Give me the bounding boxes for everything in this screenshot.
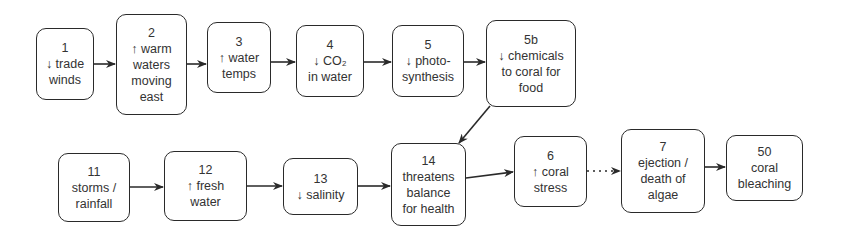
node-label-line: 13 [314, 171, 328, 187]
node-label-line: synthesis [402, 69, 454, 85]
node-label-line: ↓ chemicals [498, 48, 563, 64]
node-label-line: waters [133, 57, 170, 73]
node-label-line: temps [222, 66, 256, 82]
node-label-line: ↑ warm [131, 41, 171, 57]
node-label-line: 11 [88, 164, 101, 180]
node-label-line: ↑ water [219, 50, 259, 66]
node-label-line: in water [308, 69, 352, 85]
node-label-line: storms / [72, 180, 116, 196]
node-label-line: algae [648, 187, 679, 203]
node-label-line: 1 [62, 40, 69, 56]
node-label-line: rainfall [76, 196, 113, 212]
node-14-threatens-balance: 14 threatens balance for health [391, 143, 466, 226]
node-label-line: death of [640, 171, 685, 187]
node-label-line: 6 [547, 148, 554, 164]
node-6-coral-stress: 6 ↑ coral stress [514, 136, 587, 207]
node-5-photosynthesis: 5 ↓ photo- synthesis [392, 25, 464, 97]
node-label-line: 5 [425, 37, 432, 53]
node-label-line: 3 [236, 34, 243, 50]
node-label-line: balance [407, 185, 451, 201]
node-label-line: ↓ CO₂ [313, 53, 346, 69]
node-label-line: for health [402, 201, 454, 217]
node-13-salinity: 13 ↓ salinity [283, 158, 358, 215]
node-label-line: 7 [660, 139, 667, 155]
node-label-line: ejection / [638, 155, 688, 171]
node-label-line: east [140, 89, 164, 105]
node-50-coral-bleaching: 50 coral bleaching [726, 135, 803, 201]
node-2-warm-waters: 2 ↑ warm waters moving east [116, 14, 187, 115]
node-label-line: winds [49, 72, 81, 88]
node-label-line: 4 [327, 37, 334, 53]
node-label-line: threatens [402, 169, 454, 185]
node-label-line: water [190, 194, 221, 210]
node-label-line: 12 [199, 162, 213, 178]
edge-14-6 [466, 172, 513, 178]
node-label-line: 2 [148, 25, 155, 41]
node-label-line: ↓ trade [46, 56, 84, 72]
edge-5b-14 [459, 106, 490, 143]
node-4-co2-in-water: 4 ↓ CO₂ in water [296, 25, 364, 97]
node-label-line: bleaching [738, 176, 792, 192]
node-label-line: 5b [524, 32, 538, 48]
node-label-line: food [519, 80, 543, 96]
node-3-water-temps: 3 ↑ water temps [207, 22, 271, 93]
node-7-ejection-death-of-algae: 7 ejection / death of algae [621, 129, 705, 213]
node-label-line: 14 [422, 153, 436, 169]
node-label-line: to coral for [501, 64, 560, 80]
node-label-line: ↑ fresh [187, 178, 225, 194]
node-label-line: 50 [758, 144, 772, 160]
node-1-trade-winds: 1 ↓ trade winds [36, 28, 94, 100]
node-12-fresh-water: 12 ↑ fresh water [164, 151, 247, 221]
node-11-storms-rainfall: 11 storms / rainfall [58, 153, 130, 222]
node-label-line: moving [131, 73, 171, 89]
node-label-line: stress [534, 180, 567, 196]
node-label-line: ↓ salinity [297, 187, 345, 203]
node-5b-chemicals-to-coral: 5b ↓ chemicals to coral for food [486, 20, 576, 107]
node-label-line: ↓ photo- [405, 53, 450, 69]
node-label-line: ↑ coral [532, 164, 569, 180]
node-label-line: coral [751, 160, 778, 176]
